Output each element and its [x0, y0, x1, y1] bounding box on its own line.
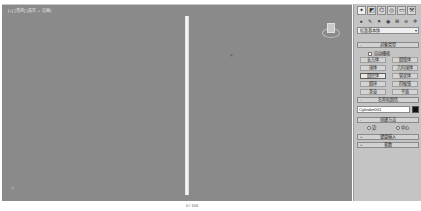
- rollout-title: 创建方法: [380, 117, 396, 122]
- edge-label: 边: [372, 125, 376, 130]
- name-color-row: Cylinder001: [357, 106, 419, 114]
- cameras-icon[interactable]: ◉: [384, 17, 392, 25]
- dropdown-value: 标准基本体: [360, 28, 380, 33]
- cylinder-object[interactable]: [185, 16, 189, 195]
- create-icon[interactable]: ✦: [357, 6, 366, 15]
- cylinder-button[interactable]: 圆柱体: [360, 73, 386, 79]
- object-color-swatch[interactable]: [412, 106, 419, 113]
- display-icon[interactable]: ▭: [397, 6, 406, 15]
- command-panel-tabs: ✦ ◩ ⌬ ◎ ▭ ⚒: [357, 6, 416, 15]
- autogrid-row: 自动栅格: [368, 51, 390, 56]
- rollout-title: 对象类型: [380, 42, 396, 47]
- sphere-button[interactable]: 球体: [360, 65, 386, 71]
- name-color-rollout-header[interactable]: - 名称和颜色: [357, 97, 419, 103]
- creation-method-rollout-header[interactable]: - 创建方法: [357, 117, 419, 123]
- shapes-icon[interactable]: ✎: [366, 17, 374, 25]
- box-button[interactable]: 长方体: [360, 57, 386, 63]
- teapot-button[interactable]: 茶壶: [360, 89, 386, 95]
- center-radio-option[interactable]: 中心: [396, 125, 409, 130]
- spacewarps-icon[interactable]: ≋: [402, 17, 410, 25]
- keyboard-entry-rollout-header[interactable]: + 键盘输入: [357, 134, 419, 140]
- rollout-title: 参数: [384, 142, 392, 147]
- lights-icon[interactable]: ✷: [375, 17, 383, 25]
- creation-method-options: 边 中心: [357, 125, 419, 130]
- perspective-viewport[interactable]: [+] [透视] [真实 + 边面] ⌖ ↗: [2, 4, 352, 201]
- command-panel: ✦ ◩ ⌬ ◎ ▭ ⚒ ● ✎ ✷ ◉ ⊞ ≋ ✲ 标准基本体 ▾ - 对象类型…: [353, 4, 421, 201]
- primitive-category-dropdown[interactable]: 标准基本体 ▾: [357, 27, 419, 34]
- rollout-title: 名称和颜色: [378, 97, 398, 102]
- edge-radio[interactable]: [367, 126, 371, 130]
- rollout-title: 键盘输入: [380, 134, 396, 139]
- time-slider-label: 0 / 100: [186, 203, 198, 208]
- hierarchy-icon[interactable]: ⌬: [377, 6, 386, 15]
- panel-empty-area: [357, 149, 419, 199]
- plane-button[interactable]: 平面: [392, 89, 418, 95]
- time-slider[interactable]: 0 / 100: [0, 202, 421, 211]
- modify-icon[interactable]: ◩: [367, 6, 376, 15]
- collapse-icon: -: [360, 43, 361, 47]
- tube-button[interactable]: 管状体: [392, 73, 418, 79]
- viewcube-cube[interactable]: [327, 23, 335, 33]
- expand-icon: +: [360, 143, 362, 147]
- pyramid-button[interactable]: 四棱锥: [392, 81, 418, 87]
- motion-icon[interactable]: ◎: [387, 6, 396, 15]
- axis-tripod-icon: ↗: [10, 185, 14, 191]
- cone-button[interactable]: 圆锥体: [392, 57, 418, 63]
- torus-button[interactable]: 圆环: [360, 81, 386, 87]
- app-window: [+] [透视] [真实 + 边面] ⌖ ↗ 0 / 100 ✦ ◩ ⌬ ◎ ▭…: [0, 0, 421, 211]
- edge-radio-option[interactable]: 边: [367, 125, 376, 130]
- helpers-icon[interactable]: ⊞: [393, 17, 401, 25]
- cursor-icon: ⌖: [230, 52, 233, 59]
- utilities-icon[interactable]: ⚒: [407, 6, 416, 15]
- geosphere-button[interactable]: 几何球体: [392, 65, 418, 71]
- collapse-icon: -: [360, 98, 361, 102]
- geometry-icon[interactable]: ●: [357, 17, 365, 25]
- expand-icon: +: [360, 135, 362, 139]
- systems-icon[interactable]: ✲: [411, 17, 419, 25]
- collapse-icon: -: [360, 118, 361, 122]
- center-radio[interactable]: [396, 126, 400, 130]
- object-type-buttons: 长方体 圆锥体 球体 几何球体 圆柱体 管状体 圆环 四棱锥 茶壶 平面: [360, 57, 418, 95]
- center-label: 中心: [401, 125, 409, 130]
- chevron-down-icon: ▾: [415, 28, 417, 33]
- autogrid-checkbox[interactable]: [368, 52, 372, 56]
- viewport-label[interactable]: [+] [透视] [真实 + 边面]: [8, 7, 51, 13]
- parameters-rollout-header[interactable]: + 参数: [357, 142, 419, 148]
- create-category-tabs: ● ✎ ✷ ◉ ⊞ ≋ ✲: [357, 17, 419, 25]
- viewcube[interactable]: [322, 22, 340, 40]
- object-type-rollout-header[interactable]: - 对象类型: [357, 42, 419, 48]
- autogrid-label: 自动栅格: [374, 51, 390, 56]
- object-name-input[interactable]: Cylinder001: [357, 106, 410, 113]
